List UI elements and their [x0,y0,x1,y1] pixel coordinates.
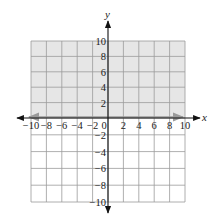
y-tick-label: 6 [101,67,106,78]
y-tick-label: 4 [101,82,107,93]
x-tick-labels: −10−8−6−4−20246810 [23,120,190,131]
x-tick-label: −8 [41,120,52,131]
y-tick-label: 10 [96,36,107,47]
x-tick-label: −10 [23,120,39,131]
y-tick-label: −4 [95,147,107,158]
y-tick-label: −8 [95,180,106,191]
y-tick-label: 2 [101,98,106,109]
x-tick-label: 6 [152,120,157,131]
x-tick-label: 2 [121,120,126,131]
y-tick-label: −6 [95,163,106,174]
x-axis-label: x [201,111,207,123]
y-axis-label: y [104,8,110,20]
coordinate-plane: −10−8−6−4−20246810 108642−2−4−6−8−10 x y [0,0,213,219]
x-tick-label: −6 [56,120,67,131]
x-tick-label: 4 [136,120,142,131]
y-tick-label: 8 [101,51,106,62]
y-tick-label: −2 [95,130,106,141]
x-tick-label: 8 [167,120,172,131]
x-tick-label: 10 [180,120,191,131]
x-tick-label: −4 [72,120,84,131]
y-tick-label: −10 [90,197,106,208]
